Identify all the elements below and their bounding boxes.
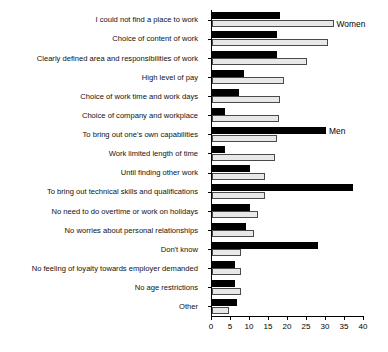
bar-men [212, 108, 225, 115]
y-axis-tick [208, 306, 212, 307]
category-label: Don't know [161, 245, 198, 254]
x-axis-tick-label: 20 [283, 322, 292, 332]
bar-women [212, 96, 280, 103]
x-axis-tick [230, 316, 231, 320]
bar-women [212, 173, 265, 180]
bar-women [212, 39, 328, 46]
category-label: Until finding other work [121, 168, 198, 177]
x-axis-tick-label: 25 [302, 322, 311, 332]
x-axis-tick-label: 35 [340, 322, 349, 332]
y-axis-tick [208, 134, 212, 135]
y-axis-tick [208, 20, 212, 21]
category-label: No need to do overtime or work on holida… [52, 207, 198, 216]
bar-women [212, 211, 258, 218]
y-axis-tick [208, 287, 212, 288]
bar-women [212, 192, 265, 199]
bar-men [212, 31, 277, 38]
x-axis-tick [344, 316, 345, 320]
bar-men [212, 70, 244, 77]
y-axis-tick [208, 173, 212, 174]
series-label-women: Women [337, 19, 366, 29]
y-axis-tick [208, 211, 212, 212]
y-axis-tick [208, 58, 212, 59]
grouped-bar-chart: I could not find a place to workChoice o… [0, 0, 388, 352]
bar-men [212, 223, 246, 230]
x-axis-tick-label: 10 [245, 322, 254, 332]
x-axis-tick [268, 316, 269, 320]
category-label: High level of pay [142, 73, 198, 82]
category-label: No worries about personal relationships [65, 226, 198, 235]
category-label: No feeling of loyalty towards employer d… [32, 264, 198, 273]
bar-women [212, 268, 241, 275]
y-axis-tick [208, 77, 212, 78]
bar-men [212, 204, 250, 211]
category-label: No age restrictions [135, 283, 198, 292]
x-axis-tick [363, 316, 364, 320]
bar-women [212, 77, 284, 84]
y-axis-tick [208, 249, 212, 250]
category-label: To bring out technical skills and qualif… [47, 187, 198, 196]
x-axis-tick-label: 15 [264, 322, 273, 332]
bar-men [212, 280, 235, 287]
bar-men [212, 127, 326, 134]
category-label: Work limited length of time [109, 149, 198, 158]
bar-men [212, 146, 225, 153]
bar-women [212, 135, 277, 142]
category-label: Choice of company and workplace [82, 111, 198, 120]
x-axis-tick [306, 316, 307, 320]
bar-women [212, 249, 241, 256]
bar-men [212, 261, 235, 268]
x-axis-tick [211, 316, 212, 320]
bar-men [212, 12, 280, 19]
y-axis-tick [208, 39, 212, 40]
y-axis-tick [208, 115, 212, 116]
category-axis-labels: I could not find a place to workChoice o… [0, 10, 203, 316]
category-label: Choice of work time and work days [80, 92, 198, 101]
x-axis-tick-label: 5 [228, 322, 232, 332]
bar-men [212, 299, 237, 306]
plot-area: 0510152025303540 WomenMen [211, 10, 363, 316]
y-axis-tick [208, 268, 212, 269]
category-label: I could not find a place to work [95, 15, 198, 24]
y-axis-tick [208, 230, 212, 231]
bar-men [212, 51, 277, 58]
category-label: Choice of content of work [112, 34, 198, 43]
x-axis-tick-label: 30 [321, 322, 330, 332]
x-axis-tick [287, 316, 288, 320]
bar-women [212, 288, 241, 295]
y-axis-tick [208, 192, 212, 193]
bar-women [212, 58, 307, 65]
category-label: Other [179, 302, 198, 311]
bar-men [212, 184, 353, 191]
bar-men [212, 89, 239, 96]
bar-women [212, 20, 334, 27]
x-axis-tick-label: 40 [359, 322, 368, 332]
series-label-men: Men [329, 126, 345, 136]
bar-women [212, 115, 279, 122]
category-label: Clearly defined area and responsibilitie… [37, 54, 198, 63]
bar-men [212, 242, 318, 249]
bar-men [212, 165, 250, 172]
bar-women [212, 230, 254, 237]
x-axis-tick [325, 316, 326, 320]
y-axis-tick [208, 153, 212, 154]
y-axis-tick [208, 96, 212, 97]
x-axis-tick-label: 0 [209, 322, 213, 332]
x-axis-tick [249, 316, 250, 320]
bar-women [212, 154, 275, 161]
category-label: To bring out one's own capabilities [83, 130, 198, 139]
bar-women [212, 307, 229, 314]
